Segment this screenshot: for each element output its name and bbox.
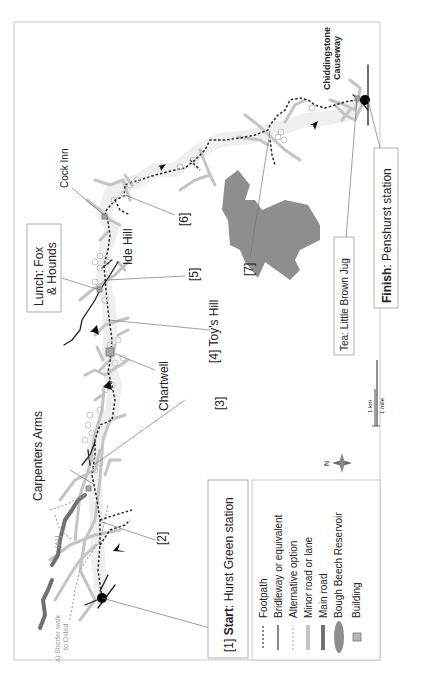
tea-label: Tea: Little Brown Jug xyxy=(334,237,354,355)
buildings xyxy=(86,96,360,491)
label-waypoint-2: [2] xyxy=(155,532,169,545)
building-cock-inn xyxy=(102,214,107,219)
svg-text:1 mile: 1 mile xyxy=(379,397,385,414)
start-label: [1] Start: Hurst Green station xyxy=(208,480,248,658)
label-causeway: Causeway xyxy=(332,36,342,80)
legend-label-minor-road: Minor road or lane xyxy=(303,536,314,618)
svg-text:1 km: 1 km xyxy=(367,400,373,413)
label-ide-hill: Ide Hill xyxy=(121,228,135,265)
legend: Footpath Bridleway or equivalent Alterna… xyxy=(252,480,380,660)
svg-text:Finish: Penshurst station: Finish: Penshurst station xyxy=(380,168,394,303)
svg-text:Tea: Little Brown Jug: Tea: Little Brown Jug xyxy=(339,258,350,351)
label-chartwell: Chartwell xyxy=(157,361,171,411)
legend-label-footpath: Footpath xyxy=(258,579,269,618)
legend-label-alternative: Alternative option xyxy=(288,541,299,618)
legend-symbol-building xyxy=(353,633,361,641)
bough-beech-reservoir xyxy=(222,170,320,280)
label-cock-inn: Cock Inn xyxy=(59,149,70,188)
compass-rose: N xyxy=(323,453,352,473)
building-carpenters-arms xyxy=(86,486,91,491)
legend-label-main-road: Main road xyxy=(318,574,329,618)
building-chartwell xyxy=(106,348,114,356)
label-shorter-walk-2: to Oxted xyxy=(62,623,69,650)
svg-text:Lunch: Fox: Lunch: Fox xyxy=(32,247,46,306)
legend-label-building: Building xyxy=(351,582,362,618)
finish-label: Finish: Penshurst station xyxy=(374,148,398,308)
penshurst-station-marker xyxy=(360,95,370,105)
arrow-icon xyxy=(113,543,126,552)
legend-label-reservoir: Bough Beech Reservoir xyxy=(333,512,344,618)
svg-text:& Hounds: & Hounds xyxy=(45,242,59,295)
svg-text:[1] Start: Hurst Green station: [1] Start: Hurst Green station xyxy=(222,497,236,652)
label-waypoint-3: [3] xyxy=(213,397,227,410)
label-shorter-walk-1: a) Shorter walk xyxy=(54,614,62,662)
main-road-a1-lower xyxy=(40,580,52,628)
lunch-label: Lunch: Fox & Hounds xyxy=(27,224,61,312)
label-waypoint-5: [5] xyxy=(187,268,201,281)
scale-bar: 1 km 1 mile xyxy=(367,360,385,426)
building-little-brown-jug xyxy=(355,96,360,101)
legend-symbol-reservoir xyxy=(334,621,344,653)
legend-label-bridleway: Bridleway or equivalent xyxy=(273,514,284,618)
label-waypoint-6: [6] xyxy=(177,213,191,226)
walking-route-map: Lunch: Fox & Hounds Cock Inn Ide Hill [6… xyxy=(0,0,422,681)
label-toys-hill: [4] Toy's Hill xyxy=(207,300,221,363)
label-a1-road: [A1] xyxy=(54,535,62,548)
svg-text:N: N xyxy=(323,461,330,466)
label-carpenters-arms: Carpenters Arms xyxy=(31,411,45,501)
label-chiddingstone: Chiddingstone xyxy=(322,27,332,90)
label-waypoint-7: [7] xyxy=(242,263,256,276)
